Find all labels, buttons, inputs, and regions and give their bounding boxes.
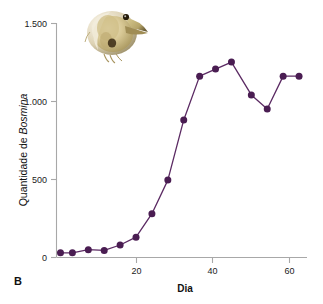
x-tick-label-20: 20 bbox=[131, 266, 141, 276]
data-point bbox=[133, 234, 140, 241]
y-axis-title-italic: Bosmina bbox=[17, 94, 29, 135]
data-point bbox=[280, 73, 287, 80]
series-markers bbox=[57, 59, 303, 257]
y-axis-ticks bbox=[51, 24, 57, 258]
data-point bbox=[264, 105, 271, 112]
data-point bbox=[69, 249, 76, 256]
svg-text:Quantidade de Bosmina: Quantidade de Bosmina bbox=[17, 94, 29, 207]
data-point bbox=[212, 66, 219, 73]
data-point bbox=[248, 91, 255, 98]
data-point bbox=[196, 73, 203, 80]
data-point bbox=[180, 116, 187, 123]
y-tick-label-500: 500 bbox=[32, 175, 47, 185]
x-tick-label-60: 60 bbox=[284, 266, 294, 276]
x-axis-title: Dia bbox=[177, 283, 193, 294]
x-tick-label-40: 40 bbox=[207, 266, 217, 276]
y-tick-label-1500: 1.500 bbox=[24, 19, 47, 29]
data-point bbox=[148, 210, 155, 217]
chart-svg: 1.500 1.000 500 0 20 40 60 Dia Quantidad… bbox=[0, 0, 323, 304]
figure-panel-b: 1.500 1.000 500 0 20 40 60 Dia Quantidad… bbox=[0, 0, 323, 304]
x-axis-ticks bbox=[137, 258, 290, 264]
data-point bbox=[57, 249, 64, 256]
y-axis-title: Quantidade de Bosmina bbox=[17, 94, 29, 207]
series-line bbox=[60, 62, 299, 253]
data-point bbox=[296, 73, 303, 80]
data-point bbox=[228, 59, 235, 66]
panel-label: B bbox=[14, 275, 22, 287]
data-point bbox=[164, 177, 171, 184]
y-axis-title-plain: Quantidade de bbox=[17, 135, 29, 207]
data-point bbox=[85, 246, 92, 253]
y-tick-label-0: 0 bbox=[42, 253, 47, 263]
data-point bbox=[117, 241, 124, 248]
data-point bbox=[101, 247, 108, 254]
